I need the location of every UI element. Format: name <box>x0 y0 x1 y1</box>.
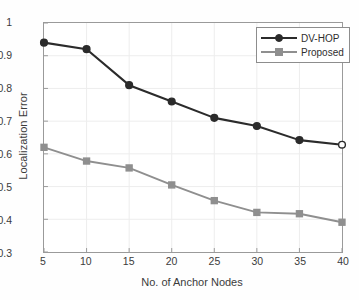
data-point-marker <box>339 219 345 225</box>
chart-figure: Localization Error No. of Anchor Nodes 0… <box>0 0 359 300</box>
legend-item-dv-hop: DV-HOP <box>261 31 344 45</box>
x-axis-label: No. of Anchor Nodes <box>42 276 342 288</box>
legend-item-proposed: Proposed <box>261 45 344 59</box>
x-tick-15: 15 <box>109 255 149 267</box>
x-tick-40: 40 <box>323 255 359 267</box>
x-tick-5: 5 <box>23 255 63 267</box>
y-tick-1: 1 <box>0 16 12 28</box>
data-point-marker <box>126 165 132 171</box>
data-point-marker <box>211 115 218 122</box>
data-point-marker <box>168 98 175 105</box>
data-point-marker <box>211 198 217 204</box>
data-point-marker <box>254 209 260 215</box>
y-tick-0.6: 0.6 <box>0 148 12 160</box>
x-tick-20: 20 <box>152 255 192 267</box>
data-point-marker <box>339 141 346 148</box>
data-point-marker <box>41 144 47 150</box>
data-point-marker <box>84 158 90 164</box>
data-point-marker <box>126 82 133 89</box>
y-tick-0.8: 0.8 <box>0 82 12 94</box>
data-point-marker <box>83 46 90 53</box>
y-tick-0.7: 0.7 <box>0 115 12 127</box>
data-point-marker <box>253 123 260 130</box>
legend-box: DV-HOP Proposed <box>256 27 350 63</box>
x-tick-30: 30 <box>237 255 277 267</box>
x-tick-10: 10 <box>66 255 106 267</box>
data-point-marker <box>296 137 303 144</box>
y-axis-label: Localization Error <box>17 56 29 216</box>
x-tick-35: 35 <box>280 255 320 267</box>
legend-swatch-proposed <box>261 46 297 58</box>
legend-swatch-dv-hop <box>261 32 297 44</box>
square-marker-icon <box>275 48 283 56</box>
y-tick-0.9: 0.9 <box>0 49 12 61</box>
y-tick-0.3: 0.3 <box>0 247 12 259</box>
y-tick-0.4: 0.4 <box>0 214 12 226</box>
y-tick-0.5: 0.5 <box>0 181 12 193</box>
x-tick-25: 25 <box>194 255 234 267</box>
circle-marker-icon <box>275 34 283 42</box>
data-point-marker <box>296 211 302 217</box>
data-point-marker <box>169 182 175 188</box>
data-point-marker <box>41 39 48 46</box>
legend-label-dv-hop: DV-HOP <box>297 33 339 44</box>
legend-label-proposed: Proposed <box>297 47 344 58</box>
